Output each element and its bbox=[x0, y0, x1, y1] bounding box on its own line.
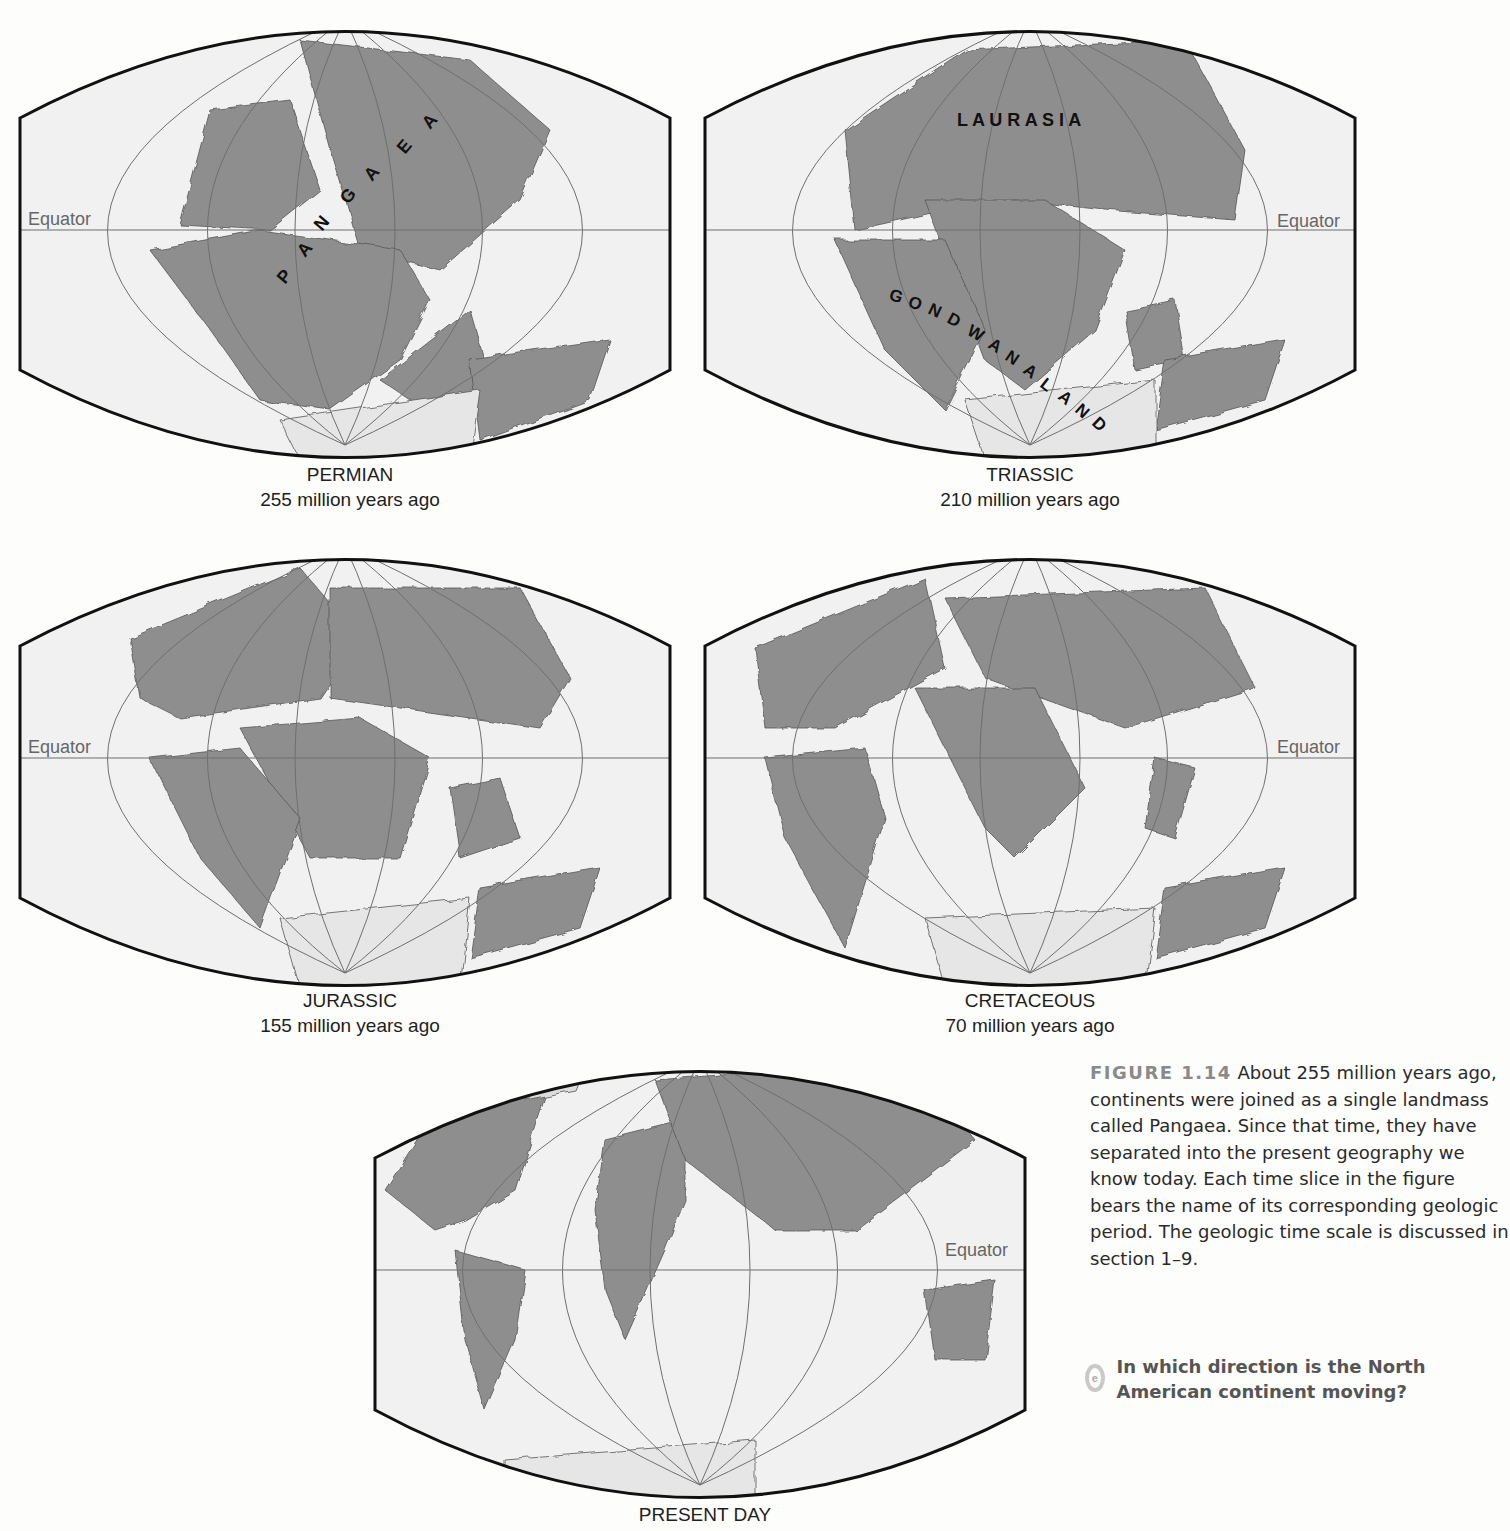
map-permian: Equator P A N G A E A bbox=[0, 0, 700, 460]
equator-label: Equator bbox=[1277, 211, 1340, 231]
caption-permian: PERMIAN255 million years ago bbox=[150, 462, 550, 512]
map-cretaceous: Equator bbox=[685, 528, 1385, 988]
equator-label: Equator bbox=[1277, 737, 1340, 757]
laurasia-label: L A U R A S I A bbox=[957, 110, 1081, 130]
figure-number: FIGURE 1.14 bbox=[1090, 1062, 1232, 1083]
caption-present-day: PRESENT DAY bbox=[505, 1502, 905, 1527]
caption-cretaceous: CRETACEOUS70 million years ago bbox=[830, 988, 1230, 1038]
caption-triassic: TRIASSIC210 million years ago bbox=[830, 462, 1230, 512]
map-jurassic: Equator bbox=[0, 528, 700, 988]
map-present-day: Equator bbox=[355, 1040, 1055, 1500]
map-triassic: Equator L A U R A S I A G O N D W A N A … bbox=[685, 0, 1385, 460]
equator-label: Equator bbox=[28, 737, 91, 757]
caption-jurassic: JURASSIC155 million years ago bbox=[150, 988, 550, 1038]
figure-caption-text: About 255 million years ago, continents … bbox=[1090, 1062, 1509, 1269]
question-text: In which direction is the North American… bbox=[1117, 1354, 1465, 1404]
equator-label: Equator bbox=[28, 209, 91, 229]
figure-caption: FIGURE 1.14 About 255 million years ago,… bbox=[1090, 1060, 1510, 1272]
question-prompt: e In which direction is the North Americ… bbox=[1085, 1354, 1465, 1404]
equator-label: Equator bbox=[945, 1240, 1008, 1260]
question-icon: e bbox=[1085, 1364, 1105, 1392]
